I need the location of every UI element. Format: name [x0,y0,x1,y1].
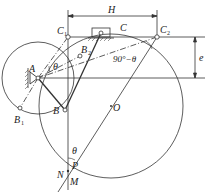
label-n: N [56,169,65,180]
svg-text:2: 2 [167,30,170,36]
label-b: B [53,105,59,116]
crank-ab [38,78,65,110]
label-b1: B [14,114,20,125]
svg-text:2: 2 [88,50,91,56]
label-c: C [120,22,127,33]
svg-text:1: 1 [64,31,67,37]
label-c2: C [160,24,167,35]
label-theta-a: θ [53,61,58,72]
label-o: O [113,102,120,113]
svg-text:1: 1 [21,120,24,126]
label-p: P [71,160,78,171]
label-h: H [107,4,116,15]
label-m: M [69,176,79,187]
label-e: e [199,52,204,63]
label-theta-p: θ [72,145,77,156]
label-angle-c2: 90°−θ [113,54,137,64]
mechanism-diagram: H e A B B 1 B 2 C C 1 C 2 O P N M θ θ 90… [0,0,211,195]
label-b2: B [81,44,87,55]
label-c1: C [57,25,64,36]
label-a: A [28,63,36,74]
